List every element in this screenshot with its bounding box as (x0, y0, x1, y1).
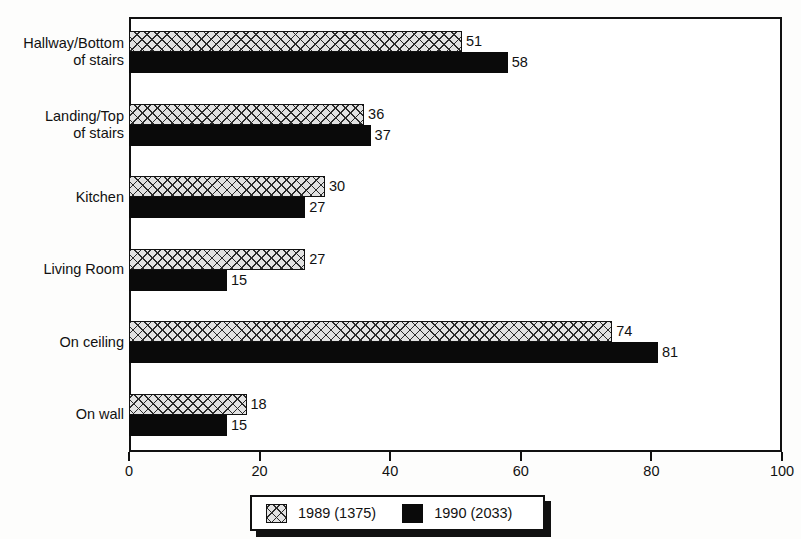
bar-value-label: 74 (616, 321, 632, 342)
bar-value-label: 37 (375, 125, 391, 146)
x-axis-tick-label: 60 (513, 463, 529, 480)
solid-black-swatch (402, 504, 423, 523)
bar (129, 321, 612, 342)
x-axis-tick (520, 452, 522, 461)
bar (129, 176, 325, 197)
x-axis-tick-label: 80 (643, 463, 659, 480)
bar-value-label: 51 (466, 31, 482, 52)
bar-value-label: 36 (368, 104, 384, 125)
x-axis-tick (389, 452, 391, 461)
category-label: Living Room (0, 261, 124, 278)
legend-item: 1990 (2033) (402, 504, 512, 523)
category-label: Kitchen (0, 189, 124, 206)
bar (129, 125, 371, 146)
bar-value-label: 30 (329, 176, 345, 197)
bar (129, 197, 305, 218)
bar-value-label: 58 (512, 52, 528, 73)
bar (129, 415, 227, 436)
legend-label: 1989 (1375) (298, 504, 376, 523)
legend-label: 1990 (2033) (434, 504, 512, 523)
bar (129, 270, 227, 291)
category-label: On ceiling (0, 334, 124, 351)
bar (129, 249, 305, 270)
bars-layer: 515836373027271574811815 (129, 17, 782, 452)
bar-chart: Hallway/Bottom of stairsLanding/Top of s… (0, 0, 801, 539)
bar-value-label: 27 (309, 197, 325, 218)
bar (129, 52, 508, 73)
category-label: Landing/Top of stairs (0, 108, 124, 142)
cross-hatch-swatch (266, 504, 287, 523)
category-axis-labels: Hallway/Bottom of stairsLanding/Top of s… (0, 17, 124, 452)
category-label: Hallway/Bottom of stairs (0, 35, 124, 69)
bar-value-label: 15 (231, 415, 247, 436)
x-axis-tick-label: 20 (252, 463, 268, 480)
bar (129, 104, 364, 125)
x-axis-tick (128, 452, 130, 461)
bar-value-label: 18 (251, 394, 267, 415)
x-axis-tick-label: 100 (770, 463, 794, 480)
chart-legend: 1989 (1375)1990 (2033) (250, 495, 545, 531)
x-axis-tick-label: 40 (382, 463, 398, 480)
bar (129, 342, 658, 363)
bar-value-label: 27 (309, 249, 325, 270)
x-axis-tick (781, 452, 783, 461)
bar-value-label: 81 (662, 342, 678, 363)
x-axis-tick-label: 0 (125, 463, 133, 480)
category-label: On wall (0, 406, 124, 423)
x-axis-tick (650, 452, 652, 461)
x-axis-tick (259, 452, 261, 461)
bar-value-label: 15 (231, 270, 247, 291)
bar (129, 31, 462, 52)
legend-item: 1989 (1375) (266, 504, 376, 523)
bar (129, 394, 247, 415)
x-axis: 020406080100 (129, 452, 782, 492)
